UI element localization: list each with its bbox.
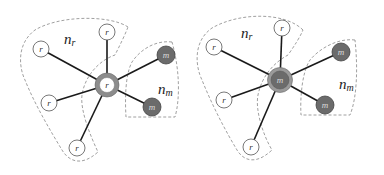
center-node-m: m: [268, 68, 293, 93]
node-m: m: [332, 43, 350, 61]
node-r: r: [41, 95, 57, 111]
label-nm: nm: [339, 76, 354, 93]
svg-text:r: r: [75, 143, 79, 153]
diagram-canvas: r r r r m m r nr nm: [0, 0, 384, 175]
diagram-right: r r r r m m m nr nm: [197, 16, 356, 160]
label-nr: nr: [64, 31, 76, 48]
svg-text:r: r: [105, 27, 109, 37]
node-m: m: [143, 98, 161, 116]
svg-text:m: m: [322, 100, 329, 110]
svg-text:r: r: [222, 95, 226, 105]
label-nr: nr: [241, 25, 253, 42]
svg-text:r: r: [249, 142, 253, 152]
node-m: m: [157, 46, 175, 64]
node-r: r: [69, 140, 85, 156]
label-nm: nm: [158, 81, 173, 98]
node-r: r: [206, 39, 222, 55]
diagram-left: r r r r m m r nr nm: [21, 18, 179, 161]
node-r: r: [33, 41, 49, 57]
svg-text:r: r: [280, 23, 284, 33]
svg-text:r: r: [39, 44, 43, 54]
svg-text:r: r: [212, 42, 216, 52]
node-r: r: [99, 24, 115, 40]
center-node-r: r: [95, 73, 119, 97]
node-r: r: [274, 20, 290, 36]
node-r: r: [216, 92, 232, 108]
svg-text:r: r: [47, 98, 51, 108]
svg-text:m: m: [277, 75, 284, 85]
svg-text:m: m: [149, 102, 156, 112]
node-m: m: [316, 96, 334, 114]
node-r: r: [243, 139, 259, 155]
svg-text:m: m: [163, 50, 170, 60]
svg-text:r: r: [105, 80, 109, 90]
svg-text:m: m: [338, 47, 345, 57]
